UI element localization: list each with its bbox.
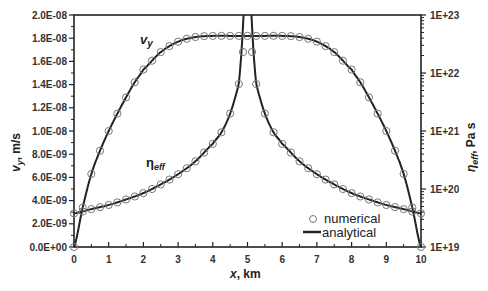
y-right-tick-label: 1E+23 bbox=[430, 10, 460, 21]
x-tick-label: 9 bbox=[384, 254, 390, 265]
y-axis-right-title: ηeff, Pa s bbox=[464, 122, 480, 172]
y-left-tick-label: 2.0E-09 bbox=[32, 218, 67, 229]
legend-numerical-marker bbox=[310, 216, 317, 223]
y-left-tick-label: 1.2E-08 bbox=[32, 102, 67, 113]
y-left-tick-label: 6.0E-09 bbox=[32, 172, 67, 183]
x-tick-label: 0 bbox=[71, 254, 77, 265]
y-left-tick-label: 1.8E-08 bbox=[32, 33, 67, 44]
y-left-tick-label: 4.0E-09 bbox=[32, 195, 67, 206]
legend-numerical-label: numerical bbox=[324, 211, 380, 226]
y-left-tick-label: 0.0E+00 bbox=[29, 242, 67, 253]
y-right-tick-label: 1E+19 bbox=[430, 242, 460, 253]
x-tick-label: 4 bbox=[210, 254, 216, 265]
x-tick-label: 5 bbox=[245, 254, 251, 265]
legend-analytical-label: analytical bbox=[322, 225, 376, 240]
x-tick-label: 8 bbox=[349, 254, 355, 265]
y-left-tick-label: 1.4E-08 bbox=[32, 79, 67, 90]
legend: numerical analytical bbox=[303, 211, 380, 240]
chart: 0123456789100.0E+002.0E-094.0E-096.0E-09… bbox=[0, 0, 488, 291]
x-tick-label: 1 bbox=[106, 254, 112, 265]
x-tick-label: 6 bbox=[279, 254, 285, 265]
x-tick-label: 2 bbox=[141, 254, 147, 265]
x-tick-label: 3 bbox=[175, 254, 181, 265]
x-axis-title: x, km bbox=[229, 267, 261, 281]
tick-labels: 0123456789100.0E+002.0E-094.0E-096.0E-09… bbox=[29, 10, 459, 266]
analytical-curves bbox=[74, 0, 421, 247]
x-tick-label: 10 bbox=[415, 254, 427, 265]
eta-annotation: ηeff bbox=[146, 155, 166, 172]
y-right-tick-label: 1E+21 bbox=[430, 126, 460, 137]
vy-annotation: vy bbox=[140, 32, 153, 49]
x-tick-label: 7 bbox=[314, 254, 320, 265]
y-right-tick-label: 1E+20 bbox=[430, 184, 460, 195]
y-right-tick-label: 1E+22 bbox=[430, 68, 460, 79]
y-left-tick-label: 1.0E-08 bbox=[32, 126, 67, 137]
y-left-tick-label: 2.0E-08 bbox=[32, 10, 67, 21]
y-left-tick-label: 8.0E-09 bbox=[32, 149, 67, 160]
y-left-tick-label: 1.6E-08 bbox=[32, 56, 67, 67]
y-axis-left-title: vy, m/s bbox=[9, 133, 25, 172]
